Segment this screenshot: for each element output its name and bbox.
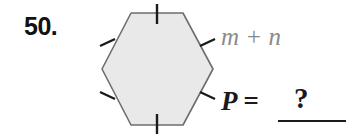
answer-question-mark: ? — [294, 84, 309, 113]
hexagon-shape — [102, 13, 213, 125]
tick-mark-upper-right-icon — [200, 39, 215, 46]
problem-figure-page: 50. m + n P = ? — [0, 0, 349, 134]
answer-blank-rule — [278, 120, 346, 122]
side-length-label: m + n — [221, 24, 281, 49]
tick-mark-lower-right-icon — [200, 92, 215, 99]
answer-blank[interactable]: ? — [278, 84, 346, 124]
perimeter-equation-label: P = — [221, 88, 259, 115]
tick-mark-upper-left-icon — [100, 39, 115, 46]
tick-mark-lower-left-icon — [100, 92, 115, 99]
